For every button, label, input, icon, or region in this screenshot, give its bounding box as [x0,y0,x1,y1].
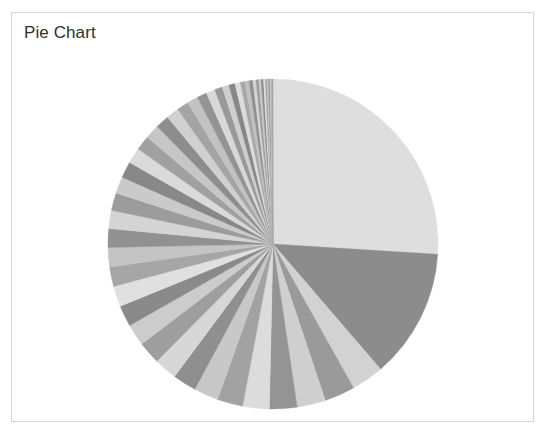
screenshot-root: Pie Chart [0,0,549,436]
pie-chart-graphic[interactable] [12,13,533,421]
chart-area [12,13,533,421]
pie-slice[interactable] [273,79,438,254]
pie-chart-panel: Pie Chart [11,12,534,422]
